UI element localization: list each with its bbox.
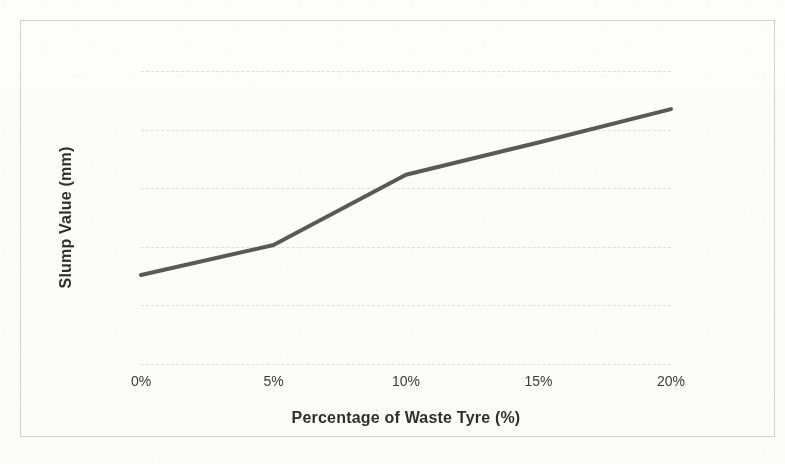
- x-axis-title: Percentage of Waste Tyre (%): [141, 409, 671, 427]
- chart-frame: Slump Value (mm) Percentage of Waste Tyr…: [20, 20, 775, 437]
- plot-area: 5060708090100 0%5%10%15%20%: [141, 71, 671, 364]
- x-tick-label-15pct: 15%: [509, 373, 569, 389]
- y-axis-title: Slump Value (mm): [57, 71, 79, 364]
- series-line-slump-value: [141, 71, 671, 364]
- x-tick-label-20pct: 20%: [641, 373, 701, 389]
- x-tick-label-0pct: 0%: [111, 373, 171, 389]
- x-tick-label-5pct: 5%: [244, 373, 304, 389]
- gridline-50: [141, 364, 671, 365]
- series-polyline: [141, 109, 671, 275]
- x-tick-label-10pct: 10%: [376, 373, 436, 389]
